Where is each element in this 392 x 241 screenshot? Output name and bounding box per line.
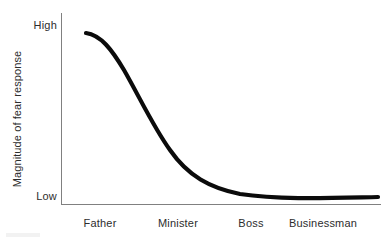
x-axis-label-businessman: Businessman (289, 217, 357, 229)
fear-response-curve (86, 33, 378, 198)
plot-area (0, 0, 392, 241)
x-axis-label-boss: Boss (238, 217, 263, 229)
scan-artifact (6, 233, 40, 237)
x-axis-label-minister: Minister (158, 217, 198, 229)
x-axis-label-father: Father (84, 217, 117, 229)
fear-response-chart-figure: Magnitude of fear response High Low Fath… (0, 0, 392, 241)
